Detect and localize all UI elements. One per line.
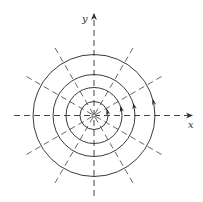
- field-line-diagram: x y: [0, 0, 203, 202]
- axes: x y: [14, 13, 194, 196]
- x-axis-label: x: [188, 119, 194, 130]
- origin-point: [92, 114, 95, 117]
- direction-arrows: [106, 99, 156, 115]
- y-axis-label: y: [81, 13, 88, 24]
